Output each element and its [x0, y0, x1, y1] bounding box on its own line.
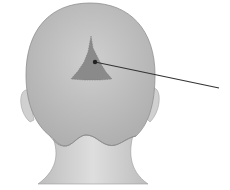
- head-back-diagram: [0, 0, 230, 190]
- leader-dot: [93, 60, 97, 64]
